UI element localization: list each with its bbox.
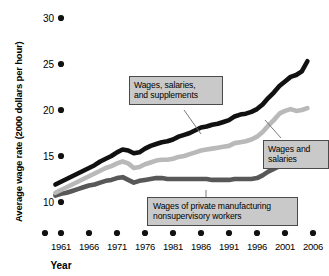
x-tick-label-1976: 1976 [135,241,155,252]
y-axis-tick-labels: 30 25 20 15 10 [43,13,55,208]
x-tick-label-1971: 1971 [107,241,127,252]
x-tick-dot-origin [42,230,48,236]
x-tick-label-1991: 1991 [219,241,239,252]
x-tick-label-1966: 1966 [79,241,99,252]
x-axis-title: Year [50,260,71,271]
x-tick-label-2006: 2006 [303,241,323,252]
callout-box-manufacturing-workers: Wages of private manufacturing nonsuperv… [147,197,298,226]
callout-wages-line2: salaries [268,154,324,164]
callout-box-wages-and-salaries: Wages and salaries [263,140,329,169]
y-tick-label-20: 20 [43,105,55,116]
x-tick-label-1996: 1996 [247,241,267,252]
y-axis-tick-markers [58,15,64,205]
x-tick-dot-1966 [86,230,92,236]
y-tick-dot-15 [58,153,64,159]
y-tick-dot-20 [58,107,64,113]
callout-wages-line1: Wages and [268,144,324,154]
x-tick-dot-1961 [58,230,64,236]
x-tick-dot-2001 [282,230,288,236]
callout-supplements-line1: Wages, salaries, [134,80,218,90]
x-tick-dot-1981 [170,230,176,236]
x-tick-dot-1986 [198,230,204,236]
callout-manufacturing-line1: Wages of private manufacturing [153,201,292,211]
x-axis-tick-markers [42,230,316,236]
x-axis-tick-labels: 1961 1966 1971 1976 1981 1986 1991 1996 … [51,241,323,252]
x-tick-dot-1991 [226,230,232,236]
x-tick-dot-1971 [114,230,120,236]
x-tick-dot-1976 [142,230,148,236]
x-tick-label-1986: 1986 [191,241,211,252]
y-tick-label-15: 15 [43,151,55,162]
callout-box-wages-salaries-supplements: Wages, salaries, and supplements [129,76,223,105]
callout-supplements-line2: and supplements [134,90,218,100]
x-tick-label-1981: 1981 [163,241,183,252]
y-tick-dot-10 [58,199,64,205]
y-tick-label-30: 30 [43,13,55,24]
x-tick-dot-1996 [254,230,260,236]
y-tick-dot-30 [58,15,64,21]
y-tick-dot-25 [58,61,64,67]
y-axis-title: Average wage rate (2000 dollars per hour… [13,41,24,222]
y-tick-label-10: 10 [43,197,55,208]
callout-manufacturing-line2: nonsupervisory workers [153,211,292,221]
x-tick-label-2001: 2001 [275,241,295,252]
y-tick-label-25: 25 [43,59,55,70]
x-tick-label-1961: 1961 [51,241,71,252]
x-tick-dot-2006 [310,230,316,236]
